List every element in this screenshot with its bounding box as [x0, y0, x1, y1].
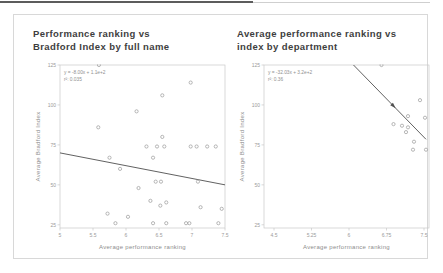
y-axis-label: Average Bradford Index [239, 112, 245, 182]
y-tick-label: 25 [50, 222, 56, 228]
y-tick-label: 125 [48, 62, 57, 68]
plot-frame [60, 65, 225, 228]
data-point [418, 99, 421, 102]
data-point [151, 156, 154, 159]
data-point [155, 145, 158, 148]
regression-annotation: y = -8.00x + 1.1e+2 [64, 70, 106, 75]
x-tick-label: 5 [59, 232, 62, 238]
left-chart-panel: Performance ranking vs Bradford Index by… [33, 27, 233, 255]
data-point [163, 145, 166, 148]
data-point [97, 126, 100, 129]
data-point [196, 180, 199, 183]
trendline [60, 153, 225, 185]
data-point [161, 94, 164, 97]
data-point [114, 222, 117, 225]
data-point [165, 222, 168, 225]
plot-contents [60, 63, 225, 224]
window-top-edge-light [253, 2, 430, 3]
x-tick-label: 6 [125, 232, 128, 238]
data-point [217, 222, 220, 225]
data-point [188, 222, 191, 225]
data-point [206, 145, 209, 148]
data-point [400, 124, 403, 127]
data-point [412, 140, 415, 143]
data-point [145, 145, 148, 148]
x-tick-label: 7.5 [222, 232, 229, 238]
regression-annotation: r²: 0.36 [268, 77, 284, 82]
x-tick-label: 6.75 [382, 232, 392, 238]
data-point [404, 131, 407, 134]
y-tick-label: 50 [50, 182, 56, 188]
data-point [220, 207, 223, 210]
data-point [106, 212, 109, 215]
data-point [126, 215, 129, 218]
y-tick-label: 125 [252, 62, 261, 68]
x-tick-label: 6.5 [156, 232, 163, 238]
plot-contents [354, 63, 428, 151]
data-point [154, 180, 157, 183]
x-tick-label: 7 [191, 232, 194, 238]
right-chart-title-line1: Average performance ranking vs [237, 27, 437, 40]
x-tick-label: 7.5 [421, 232, 428, 238]
data-point [184, 222, 187, 225]
y-tick-label: 75 [50, 142, 56, 148]
y-tick-label: 25 [254, 222, 260, 228]
trendline [354, 65, 427, 139]
y-tick-label: 75 [254, 142, 260, 148]
charts-card: Performance ranking vs Bradford Index by… [13, 14, 428, 259]
data-point [423, 116, 426, 119]
data-point [159, 180, 162, 183]
right-chart-title: Average performance ranking vs index by … [237, 27, 437, 53]
data-point [161, 135, 164, 138]
right-scatter-plot: 4.55.2566.757.5125100755025Average perfo… [237, 61, 437, 255]
data-point [406, 115, 409, 118]
y-axis-label: Average Bradford Index [35, 112, 41, 182]
data-point [189, 145, 192, 148]
window-top-edge [0, 1, 253, 3]
data-point [151, 222, 154, 225]
data-point [392, 123, 395, 126]
x-tick-label: 4.5 [271, 232, 278, 238]
data-point [137, 186, 140, 189]
data-point [118, 167, 121, 170]
plot-frame [264, 65, 429, 228]
y-tick-label: 100 [48, 102, 57, 108]
data-point [411, 148, 414, 151]
x-tick-label: 6 [348, 232, 351, 238]
data-point [159, 204, 162, 207]
data-point [108, 156, 111, 159]
x-tick-label: 5.25 [307, 232, 317, 238]
right-chart-title-line2: index by department [237, 40, 437, 53]
data-point [135, 110, 138, 113]
regression-annotation: r²: 0.035 [64, 77, 82, 82]
data-point [149, 199, 152, 202]
x-axis-label: Average performance ranking [303, 244, 390, 250]
data-point [424, 148, 427, 151]
data-point [165, 201, 168, 204]
y-tick-label: 50 [254, 182, 260, 188]
left-chart-title: Performance ranking vs Bradford Index by… [33, 27, 233, 53]
data-point [195, 145, 198, 148]
data-point [214, 145, 217, 148]
left-chart-title-line1: Performance ranking vs [33, 27, 233, 40]
y-tick-label: 100 [252, 102, 261, 108]
left-scatter-plot: 55.566.577.5125100755025Average performa… [33, 61, 233, 255]
regression-annotation: y = -32.03x + 3.2e+2 [268, 70, 312, 75]
data-point [406, 126, 409, 129]
data-point [199, 206, 202, 209]
right-chart-panel: Average performance ranking vs index by … [237, 27, 437, 255]
left-chart-title-line2: Bradford Index by full name [33, 40, 233, 53]
data-point [189, 81, 192, 84]
x-axis-label: Average performance ranking [99, 244, 186, 250]
x-tick-label: 5.5 [90, 232, 97, 238]
